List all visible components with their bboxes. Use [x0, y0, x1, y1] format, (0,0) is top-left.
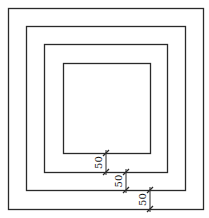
concentric-squares-diagram: 50 50 50 — [0, 0, 209, 218]
dimension-label-3: 50 — [137, 193, 148, 206]
dimension-markers-group: 50 50 50 — [93, 150, 153, 212]
dimension-label-2: 50 — [113, 175, 124, 188]
squares-group — [9, 9, 204, 210]
dimension-label-1: 50 — [93, 156, 104, 169]
outer-square — [9, 9, 204, 210]
inner-square — [64, 64, 151, 154]
